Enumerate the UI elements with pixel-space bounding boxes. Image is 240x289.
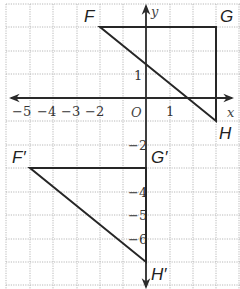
vertex-label-f-prime: F′ bbox=[12, 148, 26, 167]
y-tick-label: −2 bbox=[128, 138, 147, 153]
y-tick-label: 1 bbox=[134, 68, 142, 83]
x-tick-label: −3 bbox=[61, 104, 80, 119]
coordinate-plane: y x O −5 −4 −3 −2 1 1 −2 −4 −5 −6 F G H … bbox=[0, 0, 240, 289]
vertex-label-g: G bbox=[220, 7, 233, 26]
x-tick-label: −2 bbox=[85, 104, 104, 119]
vertex-label-h: H bbox=[219, 124, 232, 143]
vertex-label-h-prime: H′ bbox=[151, 265, 167, 284]
x-tick-label: 1 bbox=[166, 104, 174, 119]
x-tick-label: −4 bbox=[37, 104, 56, 119]
y-axis-label: y bbox=[150, 4, 159, 19]
vertex-label-g-prime: G′ bbox=[151, 148, 168, 167]
y-tick-label: −6 bbox=[128, 232, 147, 247]
y-tick-label: −5 bbox=[128, 208, 147, 223]
origin-label: O bbox=[131, 105, 142, 120]
x-axis-label: x bbox=[227, 105, 235, 120]
y-tick-label: −4 bbox=[128, 185, 147, 200]
x-tick-label: −5 bbox=[12, 104, 31, 119]
vertex-label-f: F bbox=[84, 7, 96, 26]
